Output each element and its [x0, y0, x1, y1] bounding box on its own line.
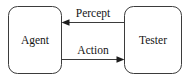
node-agent[interactable]: Agent [9, 7, 62, 74]
agent-tester-diagram: Agent Tester Percept Action [0, 0, 188, 82]
tester-box-label: Tester [139, 34, 167, 46]
diagram-canvas: Agent Tester Percept Action [0, 0, 188, 82]
percept-arrowhead-left-icon [62, 19, 70, 26]
edge-percept[interactable]: Percept [62, 7, 125, 26]
action-arrowhead-right-icon [117, 56, 125, 63]
percept-edge-label: Percept [76, 7, 111, 20]
action-edge-label: Action [77, 44, 109, 56]
node-tester[interactable]: Tester [125, 7, 182, 74]
agent-box-label: Agent [21, 34, 50, 47]
edge-action[interactable]: Action [62, 44, 125, 63]
